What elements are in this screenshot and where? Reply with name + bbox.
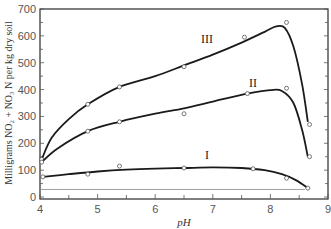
data-point [306, 186, 310, 190]
y-tick-label: 200 [18, 137, 36, 149]
data-point [182, 112, 186, 116]
curve-II [42, 90, 308, 163]
data-point [182, 65, 186, 69]
data-point [285, 86, 289, 90]
curve-I [43, 167, 308, 188]
data-point [251, 167, 255, 171]
series-I [41, 164, 310, 190]
series-label-I: I [205, 148, 209, 162]
x-tick-label: 8 [267, 203, 273, 215]
curve-III [42, 26, 308, 160]
x-axis-label: pH [176, 216, 192, 228]
data-point [117, 120, 121, 124]
y-tick-label: 300 [18, 110, 36, 122]
series-label-II: II [249, 76, 257, 90]
x-tick-label: 7 [210, 203, 216, 215]
data-point [182, 166, 186, 170]
x-tick-label: 5 [95, 203, 101, 215]
series-label-III: III [201, 32, 213, 46]
data-point [285, 176, 289, 180]
plot-frame [40, 9, 328, 199]
series-group [40, 20, 312, 190]
data-point [117, 85, 121, 89]
data-point [86, 129, 90, 133]
x-tick-label: 9 [325, 203, 331, 215]
x-tick-label: 6 [152, 203, 158, 215]
data-point [308, 155, 312, 159]
y-tick-label: 100 [18, 164, 36, 176]
data-point [41, 175, 45, 179]
y-tick-label: 0 [30, 191, 36, 203]
x-tick-label: 4 [37, 203, 43, 215]
y-tick-label: 500 [18, 57, 36, 69]
data-point [86, 172, 90, 176]
y-axis-label: Milligrams NO₂ + NO₃ N per kg dry soil [3, 21, 14, 185]
data-point [285, 20, 289, 24]
series-II [40, 86, 312, 164]
y-tick-label: 700 [18, 3, 36, 15]
y-tick-label: 400 [18, 84, 36, 96]
data-point [245, 92, 249, 96]
axes: 4567890100200300400500600700pHMilligrams… [3, 3, 331, 228]
y-tick-label: 600 [18, 30, 36, 42]
data-point [242, 35, 246, 39]
data-point [117, 164, 121, 168]
data-point [308, 122, 312, 126]
chart: 4567890100200300400500600700pHMilligrams… [0, 0, 331, 229]
data-point [40, 160, 44, 164]
data-point [86, 102, 90, 106]
